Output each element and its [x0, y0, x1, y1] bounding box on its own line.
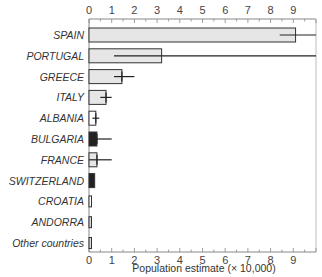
bar-chart: 0123456789 0123456789 SPAINPORTUGALGREEC…	[0, 0, 322, 277]
category-label: ALBANIA	[39, 112, 84, 124]
tick-label: 1	[109, 4, 115, 16]
bar	[89, 238, 92, 249]
tick-label: 0	[86, 254, 92, 266]
tick-label: 9	[290, 254, 296, 266]
tick-label: 5	[199, 4, 205, 16]
x-axis-title: Population estimate (× 10,000)	[132, 262, 275, 274]
category-label: PORTUGAL	[26, 50, 84, 62]
category-label: ANDORRA	[30, 216, 84, 228]
bar	[89, 196, 92, 207]
tick-label: 6	[222, 4, 228, 16]
tick-label: 2	[131, 4, 137, 16]
category-label: SPAIN	[53, 29, 84, 41]
category-label: CROATIA	[38, 195, 84, 207]
category-label: ITALY	[57, 91, 85, 103]
tick-label: 1	[109, 254, 115, 266]
category-label: SWITZERLAND	[9, 175, 85, 187]
bar	[89, 217, 92, 228]
category-label: BULGARIA	[31, 133, 84, 145]
category-labels: SPAINPORTUGALGREECEITALYALBANIABULGARIAF…	[9, 29, 85, 249]
tick-label: 9	[290, 4, 296, 16]
category-label: Other countries	[12, 237, 85, 249]
tick-label: 4	[177, 4, 183, 16]
tick-label: 7	[245, 4, 251, 16]
tick-label: 8	[268, 4, 274, 16]
category-label: FRANCE	[41, 154, 85, 166]
top-axis: 0123456789	[86, 4, 316, 23]
bars	[89, 28, 316, 249]
tick-label: 3	[154, 4, 160, 16]
tick-label: 0	[86, 4, 92, 16]
bar	[89, 28, 296, 42]
category-label: GREECE	[40, 71, 85, 83]
bar	[89, 174, 95, 188]
